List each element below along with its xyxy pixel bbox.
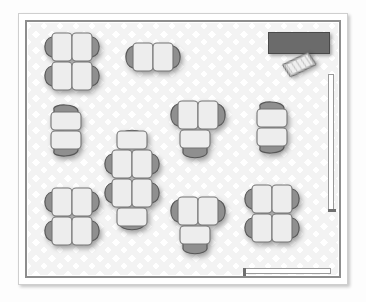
floorplan-canvas xyxy=(0,0,366,302)
desk-cluster-center-column[interactable] xyxy=(101,128,163,232)
desk-cluster-top-center[interactable] xyxy=(122,41,184,81)
desk-icon xyxy=(257,109,287,146)
desk-icon xyxy=(112,131,152,226)
door-jamb-icon xyxy=(328,209,336,212)
blackboard[interactable] xyxy=(268,32,330,54)
desk-cluster-mid-left[interactable] xyxy=(45,105,89,157)
desk-icon xyxy=(252,185,292,242)
desk-icon xyxy=(133,43,173,71)
door-right[interactable] xyxy=(328,74,334,212)
desk-cluster-bottom-right[interactable] xyxy=(241,180,303,248)
desk-icon xyxy=(178,101,218,148)
desk-cluster-mid-right[interactable] xyxy=(251,102,295,154)
desk-cluster-bottom-left[interactable] xyxy=(41,183,103,251)
desk-icon xyxy=(51,112,81,149)
desk-cluster-bottom-center[interactable] xyxy=(167,195,229,255)
door-bottom[interactable] xyxy=(243,268,331,274)
door-jamb-icon xyxy=(243,268,246,276)
desk-icon xyxy=(178,197,218,244)
desk-cluster-mid-center[interactable] xyxy=(167,99,229,159)
desk-icon xyxy=(52,33,92,90)
desk-cluster-top-left[interactable] xyxy=(41,28,103,96)
desk-icon xyxy=(52,188,92,245)
